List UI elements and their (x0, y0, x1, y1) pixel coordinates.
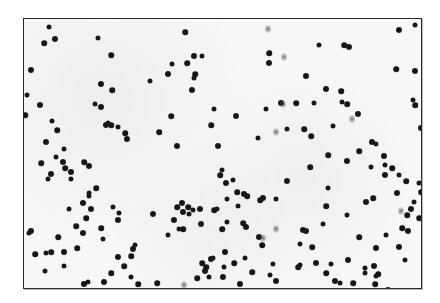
particle (108, 122, 114, 128)
particle (54, 127, 60, 133)
particle (174, 204, 180, 210)
particle (101, 237, 106, 242)
particle (271, 262, 276, 267)
particle (62, 264, 67, 269)
smudge (181, 281, 187, 289)
particle (74, 245, 80, 251)
particle (256, 136, 261, 141)
particle (115, 217, 121, 223)
particle (369, 165, 374, 170)
particle (187, 212, 192, 217)
particle (48, 249, 54, 255)
particle (307, 164, 313, 170)
particle (73, 223, 79, 229)
particle (67, 207, 72, 212)
particle (23, 112, 28, 118)
particle (375, 271, 381, 277)
particle (156, 129, 162, 135)
particle (373, 245, 379, 251)
smudge (273, 225, 279, 233)
particle (202, 268, 208, 274)
particle (25, 93, 30, 98)
particle (62, 165, 68, 171)
particle (93, 102, 98, 107)
particle (60, 159, 66, 165)
particle (273, 278, 279, 284)
particle (405, 228, 411, 234)
particle (412, 102, 418, 108)
particle (219, 226, 225, 232)
particle (150, 211, 156, 217)
particle (374, 142, 379, 147)
particle (308, 133, 314, 139)
particle (372, 281, 378, 287)
particle (121, 263, 127, 269)
particle (393, 66, 399, 72)
particle (350, 280, 356, 286)
particle (215, 143, 221, 149)
particle (174, 143, 180, 149)
particle (371, 263, 377, 269)
particle (61, 249, 67, 255)
particle (185, 204, 191, 210)
particle (46, 177, 51, 182)
particle (412, 200, 417, 205)
particle (211, 207, 217, 213)
particle (135, 281, 141, 287)
particle (212, 107, 217, 112)
particle (43, 269, 48, 274)
particle (264, 107, 269, 112)
particle (243, 224, 249, 230)
particle (317, 43, 322, 48)
particle (165, 71, 171, 77)
particle (385, 287, 391, 289)
particle (69, 177, 74, 182)
particle (313, 260, 319, 266)
particle (266, 50, 272, 56)
particle (98, 81, 104, 87)
particle (403, 258, 408, 263)
particle (303, 73, 309, 79)
particle (323, 203, 329, 209)
particle (93, 185, 99, 191)
particle (108, 270, 114, 276)
particle (43, 139, 49, 145)
smudge (273, 128, 279, 136)
particle (171, 217, 177, 223)
particle (122, 130, 128, 136)
particle (404, 212, 410, 218)
particle (96, 36, 101, 41)
particle (220, 274, 226, 280)
particle (236, 204, 241, 209)
particle (28, 67, 34, 73)
particle (285, 127, 290, 132)
particle (326, 186, 331, 191)
particle (284, 178, 290, 184)
particle (412, 68, 418, 74)
smudge (260, 234, 266, 242)
smudge (398, 207, 404, 215)
particle (223, 180, 229, 186)
particle (180, 226, 186, 232)
particle (237, 281, 243, 287)
smudge (280, 100, 286, 108)
particle (346, 44, 352, 50)
particle (189, 87, 195, 93)
particle (184, 60, 190, 66)
particle (115, 254, 121, 260)
particle (28, 228, 34, 234)
particle (52, 36, 58, 42)
particle (260, 195, 266, 201)
particle (249, 269, 255, 275)
particle (301, 126, 307, 132)
particle (413, 23, 418, 28)
particle (244, 193, 250, 199)
particle (194, 275, 200, 281)
particle (268, 273, 273, 278)
particle (208, 122, 214, 128)
particle (356, 234, 362, 240)
particle (88, 206, 94, 212)
particle (98, 225, 104, 231)
particle (197, 206, 203, 212)
particle (298, 263, 303, 268)
